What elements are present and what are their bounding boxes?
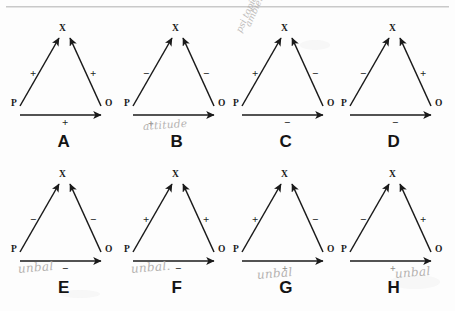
node-label-o: O bbox=[435, 245, 442, 255]
sign-p-to-o: − bbox=[175, 263, 181, 274]
node-label-x: X bbox=[59, 24, 66, 34]
sign-o-to-x: + bbox=[420, 68, 426, 79]
node-label-p: P bbox=[11, 245, 17, 255]
node-label-x: X bbox=[389, 170, 396, 180]
node-label-p: P bbox=[124, 99, 130, 109]
panel-letter: A bbox=[10, 132, 118, 152]
node-label-p: P bbox=[124, 245, 130, 255]
sign-p-to-x: + bbox=[252, 214, 258, 225]
sign-o-to-x: − bbox=[312, 68, 318, 79]
triad-panel-c: P O X + − − C bbox=[232, 14, 340, 160]
sign-o-to-x: − bbox=[90, 214, 96, 225]
node-label-o: O bbox=[105, 245, 112, 255]
node-label-p: P bbox=[233, 245, 239, 255]
node-label-x: X bbox=[389, 24, 396, 34]
node-label-o: O bbox=[218, 99, 225, 109]
triad-panel-g: P O X + − + unbal G bbox=[232, 160, 340, 306]
triad-panel-d: P O X − + − D bbox=[340, 14, 448, 160]
sign-p-to-x: + bbox=[252, 68, 258, 79]
triad-panel-h: P O X − + + unbal H bbox=[340, 160, 448, 306]
sign-p-to-o: − bbox=[284, 117, 290, 128]
panel-letter: E bbox=[10, 278, 118, 298]
node-label-x: X bbox=[172, 170, 179, 180]
triad-panel-a: P O X + + + A bbox=[10, 14, 118, 160]
sign-p-to-x: − bbox=[360, 68, 366, 79]
sign-p-to-x: + bbox=[143, 214, 149, 225]
sign-p-to-x: − bbox=[143, 68, 149, 79]
sign-p-to-x: + bbox=[30, 68, 36, 79]
panel-letter: G bbox=[232, 278, 340, 298]
node-label-x: X bbox=[172, 24, 179, 34]
node-label-p: P bbox=[341, 99, 347, 109]
sign-p-to-o: + bbox=[62, 117, 68, 128]
node-label-p: P bbox=[11, 99, 17, 109]
node-label-p: P bbox=[341, 245, 347, 255]
node-label-o: O bbox=[327, 99, 334, 109]
panel-letter: C bbox=[232, 132, 340, 152]
sign-o-to-x: − bbox=[312, 214, 318, 225]
scanned-figure-page: ambient psi topic P O X + + + A bbox=[0, 0, 455, 311]
page-rule-line-shadow bbox=[6, 7, 449, 8]
sign-o-to-x: + bbox=[203, 214, 209, 225]
node-label-o: O bbox=[105, 99, 112, 109]
node-label-p: P bbox=[233, 99, 239, 109]
node-label-o: O bbox=[327, 245, 334, 255]
sign-o-to-x: + bbox=[420, 214, 426, 225]
node-label-o: O bbox=[435, 99, 442, 109]
triad-panel-b: P O X − − + attitude B bbox=[123, 14, 231, 160]
panel-letter: H bbox=[340, 278, 448, 298]
sign-p-to-x: − bbox=[360, 214, 366, 225]
node-label-x: X bbox=[281, 24, 288, 34]
triad-panel-e: P O X − − − unbal E bbox=[10, 160, 118, 306]
panel-letter: F bbox=[123, 278, 231, 298]
node-label-o: O bbox=[218, 245, 225, 255]
sign-p-to-x: − bbox=[30, 214, 36, 225]
sign-o-to-x: + bbox=[90, 68, 96, 79]
sign-p-to-o: − bbox=[62, 263, 68, 274]
panel-letter: B bbox=[123, 132, 231, 152]
panel-letter: D bbox=[340, 132, 448, 152]
node-label-x: X bbox=[281, 170, 288, 180]
sign-p-to-o: − bbox=[392, 117, 398, 128]
node-label-x: X bbox=[59, 170, 66, 180]
sign-o-to-x: − bbox=[203, 68, 209, 79]
triad-panel-f: P O X + + − unbal. F bbox=[123, 160, 231, 306]
